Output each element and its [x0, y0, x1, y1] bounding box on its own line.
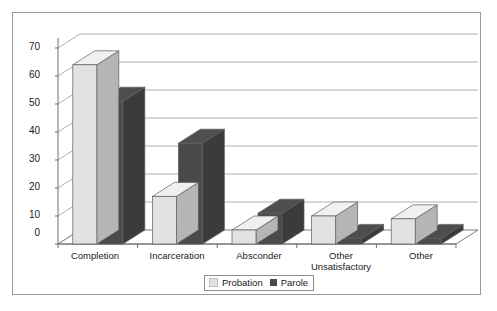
legend-label-parole: Parole	[281, 277, 308, 288]
x-category-label: Completion	[56, 250, 134, 261]
legend-swatch-probation	[209, 278, 218, 287]
x-category-label: Other Unsatisfactory	[300, 250, 382, 272]
legend-swatch-parole	[270, 279, 277, 286]
x-category-label-line1: Absconder	[220, 250, 298, 261]
y-tick-label: 20	[14, 181, 40, 192]
x-category-label-line1: Other	[300, 250, 382, 261]
x-category-label: Absconder	[220, 250, 298, 261]
x-category-label-line1: Other	[382, 250, 460, 261]
x-category-label-line2: Unsatisfactory	[300, 261, 382, 272]
bar-probation-1	[152, 182, 198, 244]
y-tick-label: 0	[14, 227, 40, 238]
y-tick-label: 70	[14, 41, 40, 52]
x-category-label: Other	[382, 250, 460, 261]
x-category-label-line1: Incarceration	[136, 250, 218, 261]
gridline-depth	[58, 34, 80, 48]
y-tick-label: 60	[14, 69, 40, 80]
legend-label-probation: Probation	[222, 277, 263, 288]
y-tick-label: 50	[14, 97, 40, 108]
legend-item-probation: Probation	[209, 277, 263, 288]
y-tick-label: 30	[14, 153, 40, 164]
y-tick-label: 40	[14, 125, 40, 136]
x-category-label-line1: Completion	[56, 250, 134, 261]
legend-item-parole: Parole	[270, 277, 308, 288]
x-category-label: Incarceration	[136, 250, 218, 261]
bar-probation-0	[73, 51, 119, 244]
chart-canvas: 70 60 50 40 30 20 10 0 Completion Incarc…	[0, 0, 497, 311]
y-tick-label: 10	[14, 209, 40, 220]
chart-legend: Probation Parole	[204, 275, 314, 291]
